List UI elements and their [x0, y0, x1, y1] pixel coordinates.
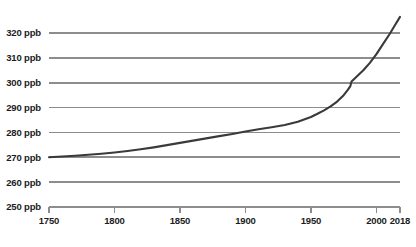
y-axis-tick-label: 260 ppb	[6, 177, 41, 188]
y-axis-tick-label: 310 ppb	[6, 52, 41, 63]
x-axis-tick-label: 1750	[39, 215, 60, 226]
y-axis-tick-label: 320 ppb	[6, 27, 41, 38]
x-axis-labels: 1750180018501900195020002018	[39, 215, 411, 226]
gridlines	[49, 33, 400, 182]
x-axis-tick-label: 1900	[235, 215, 256, 226]
x-axis-tick-label: 2000	[366, 215, 387, 226]
y-axis-tick-label: 290 ppb	[6, 102, 41, 113]
y-axis-tick-label: 280 ppb	[6, 127, 41, 138]
n2o-concentration-chart: 250 ppb260 ppb270 ppb280 ppb290 ppb300 p…	[0, 0, 416, 247]
y-axis-tick-label: 250 ppb	[6, 201, 41, 212]
data-series	[49, 17, 400, 157]
y-axis-labels: 250 ppb260 ppb270 ppb280 ppb290 ppb300 p…	[6, 27, 41, 212]
x-axis-tick-label: 1950	[301, 215, 322, 226]
x-axis-tick-label: 2018	[390, 215, 411, 226]
x-axis-tick-label: 1800	[104, 215, 125, 226]
x-axis-tick-label: 1850	[170, 215, 191, 226]
chart-canvas: 250 ppb260 ppb270 ppb280 ppb290 ppb300 p…	[0, 0, 416, 247]
y-axis-tick-label: 270 ppb	[6, 152, 41, 163]
y-axis-tick-label: 300 ppb	[6, 77, 41, 88]
series-line	[49, 17, 400, 157]
x-axis-ticks	[49, 207, 400, 213]
